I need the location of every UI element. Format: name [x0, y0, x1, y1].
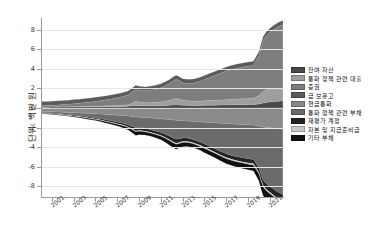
y-tick [37, 167, 41, 168]
legend-label: 금 보유고 [308, 92, 334, 99]
gridline [41, 30, 284, 31]
y-tick-label: 6 [31, 45, 35, 53]
y-tick-label: 4 [31, 65, 35, 73]
legend-swatch-icon [291, 135, 305, 141]
legend-item[interactable]: 잔여 자산 [291, 66, 383, 73]
y-tick-label: -4 [29, 143, 35, 151]
legend-item[interactable]: 기타 부채 [291, 134, 383, 141]
legend-item[interactable]: 통화 정책 관련 부채 [291, 109, 383, 116]
y-tick [37, 30, 41, 31]
legend-swatch-icon [291, 92, 305, 98]
legend-item[interactable]: 증권 [291, 83, 383, 90]
y-tick [37, 49, 41, 50]
y-tick-label: -6 [29, 163, 35, 171]
legend-item[interactable]: 현금통화 [291, 100, 383, 107]
gridline [41, 128, 284, 129]
legend-label: 잔여 자산 [308, 66, 334, 73]
y-tick [37, 69, 41, 70]
y-tick [37, 88, 41, 89]
legend-label: 통화 정책 관련 부채 [308, 109, 362, 116]
gridline [41, 186, 284, 187]
y-tick [37, 128, 41, 129]
legend-label: 통화 정책 관련 대출 [308, 75, 362, 82]
y-tick [37, 147, 41, 148]
plot-area: 86420-2-4-6-8 20012003200520072009201120… [41, 18, 284, 198]
legend: 잔여 자산통화 정책 관련 대출증권금 보유고현금통화통화 정책 관련 부채재평… [291, 66, 383, 143]
legend-label: 증권 [308, 83, 320, 90]
legend-label: 자본 및 지급준비금 [308, 126, 360, 133]
gridline [41, 69, 284, 70]
gridline [41, 88, 284, 89]
legend-item[interactable]: 자본 및 지급준비금 [291, 126, 383, 133]
legend-swatch-icon [291, 101, 305, 107]
gridline [41, 147, 284, 148]
gridline [41, 167, 284, 168]
y-axis-title: 단위: 백만 원 [25, 92, 37, 142]
legend-item[interactable]: 금 보유고 [291, 92, 383, 99]
y-tick-label: -2 [29, 124, 35, 132]
legend-label: 기타 부채 [308, 134, 334, 141]
legend-label: 현금통화 [308, 100, 332, 107]
legend-swatch-icon [291, 67, 305, 73]
y-tick [37, 186, 41, 187]
y-axis-line [41, 18, 42, 198]
legend-swatch-icon [291, 118, 305, 124]
chart-figure: 단위: 백만 원 86420-2-4-6-8 20012003200520072… [0, 0, 384, 234]
legend-swatch-icon [291, 126, 305, 132]
legend-item[interactable]: 재평가 계정 [291, 117, 383, 124]
y-tick-label: 0 [31, 104, 35, 112]
legend-item[interactable]: 통화 정책 관련 대출 [291, 75, 383, 82]
legend-swatch-icon [291, 75, 305, 81]
zero-line [41, 108, 284, 109]
gridline [41, 49, 284, 50]
legend-label: 재평가 계정 [308, 117, 340, 124]
legend-swatch-icon [291, 109, 305, 115]
y-tick-label: -8 [29, 182, 35, 190]
y-tick-label: 2 [31, 84, 35, 92]
y-tick-label: 8 [31, 26, 35, 34]
legend-swatch-icon [291, 84, 305, 90]
y-tick [37, 108, 41, 109]
